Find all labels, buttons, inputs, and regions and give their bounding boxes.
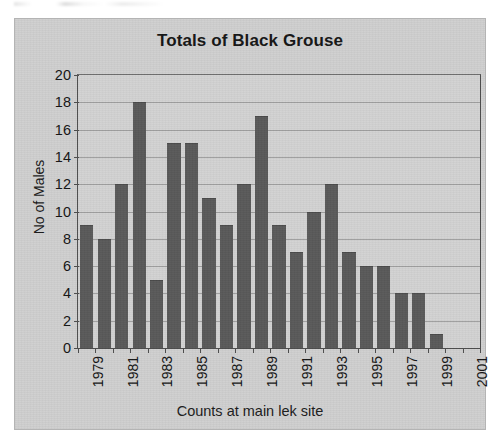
x-axis-tick-mark — [218, 348, 219, 353]
bar — [272, 225, 285, 348]
bar — [202, 198, 215, 348]
x-axis-tick-mark — [445, 348, 446, 353]
y-axis-tick-label: 12 — [55, 177, 71, 192]
chart-container: Totals of Black Grouse No of Males 02468… — [14, 18, 486, 430]
x-axis-tick-mark — [183, 348, 184, 353]
x-axis-tick-mark — [78, 348, 79, 353]
chart-screenshot: Totals of Black Grouse No of Males 02468… — [0, 0, 502, 447]
x-axis-tick-label: 1987 — [230, 356, 244, 387]
bar — [185, 143, 198, 348]
bar-slot — [130, 75, 147, 348]
bar-slot — [200, 75, 217, 348]
bar — [237, 184, 250, 348]
x-axis-tick-label: 1983 — [160, 356, 174, 387]
x-axis-tick-mark — [130, 348, 131, 353]
chart-title: Totals of Black Grouse — [15, 31, 485, 51]
bar-slot — [218, 75, 235, 348]
bar — [167, 143, 180, 348]
x-axis-tick-mark — [148, 348, 149, 353]
y-axis-tick-label: 0 — [63, 341, 71, 356]
bar — [342, 252, 355, 348]
bar — [290, 252, 303, 348]
y-axis-tick-label: 4 — [63, 286, 71, 301]
bar-slot — [235, 75, 252, 348]
bar-slot — [288, 75, 305, 348]
x-axis-tick-label: 1995 — [370, 356, 384, 387]
bar — [150, 280, 163, 348]
y-axis-tick-label: 10 — [55, 204, 71, 219]
bar-slot — [340, 75, 357, 348]
scan-artifact — [14, 2, 164, 6]
x-axis-tick-mark — [463, 348, 464, 353]
x-axis-tick-mark — [375, 348, 376, 353]
x-axis-tick-mark — [428, 348, 429, 353]
x-axis-tick-label: 2001 — [475, 356, 489, 387]
x-axis-tick-mark — [305, 348, 306, 353]
bar — [255, 116, 268, 348]
bar-slot — [183, 75, 200, 348]
bar-slot — [410, 75, 427, 348]
x-axis-tick-label: 1999 — [440, 356, 454, 387]
plot-area: 02468101214161820 1979198119831985198719… — [77, 74, 481, 349]
x-axis-tick-mark — [340, 348, 341, 353]
bars-group — [78, 75, 480, 348]
x-axis-tick-label: 1991 — [300, 356, 314, 387]
y-axis-tick-label: 2 — [63, 313, 71, 328]
y-axis-tick-label: 20 — [55, 68, 71, 83]
y-axis-tick-label: 6 — [63, 259, 71, 274]
bar-slot — [358, 75, 375, 348]
bar — [98, 239, 111, 348]
bar — [430, 334, 443, 348]
bar — [377, 266, 390, 348]
bar-slot — [78, 75, 95, 348]
bar — [115, 184, 128, 348]
bar — [220, 225, 233, 348]
x-axis-tick-mark — [270, 348, 271, 353]
bar-slot — [165, 75, 182, 348]
x-axis-tick-label: 1989 — [265, 356, 279, 387]
bar — [360, 266, 373, 348]
bar-slot — [323, 75, 340, 348]
bar-slot — [270, 75, 287, 348]
y-axis-tick-label: 8 — [63, 232, 71, 247]
bar-slot — [463, 75, 480, 348]
x-axis-tick-mark — [410, 348, 411, 353]
x-axis-tick-mark — [288, 348, 289, 353]
bar-slot — [428, 75, 445, 348]
bar — [80, 225, 93, 348]
x-axis-tick-label: 1997 — [405, 356, 419, 387]
y-axis-tick-label: 16 — [55, 122, 71, 137]
bar — [395, 293, 408, 348]
x-axis-tick-mark — [480, 348, 481, 353]
x-axis-tick-mark — [358, 348, 359, 353]
bar — [412, 293, 425, 348]
bar-slot — [305, 75, 322, 348]
y-axis-tick-label: 14 — [55, 150, 71, 165]
bar — [133, 102, 146, 348]
x-axis-tick-mark — [253, 348, 254, 353]
x-axis-tick-label: 1979 — [91, 356, 105, 387]
x-axis-tick-mark — [200, 348, 201, 353]
bar-slot — [95, 75, 112, 348]
bar-slot — [393, 75, 410, 348]
x-axis-tick-mark — [165, 348, 166, 353]
x-axis-tick-label: 1993 — [335, 356, 349, 387]
bar-slot — [253, 75, 270, 348]
bar-slot — [148, 75, 165, 348]
x-axis-tick-label: 1985 — [195, 356, 209, 387]
x-axis-tick-label: 1981 — [126, 356, 140, 387]
x-axis-tick-mark — [323, 348, 324, 353]
bar-slot — [375, 75, 392, 348]
bar — [325, 184, 338, 348]
bar-slot — [445, 75, 462, 348]
x-axis-tick-mark — [113, 348, 114, 353]
x-axis-tick-mark — [95, 348, 96, 353]
bar — [307, 212, 320, 349]
y-axis-tick-label: 18 — [55, 95, 71, 110]
x-axis-title: Counts at main lek site — [15, 403, 485, 419]
x-axis-tick-mark — [235, 348, 236, 353]
y-axis-title: No of Males — [31, 127, 47, 267]
x-axis-tick-mark — [393, 348, 394, 353]
bar-slot — [113, 75, 130, 348]
